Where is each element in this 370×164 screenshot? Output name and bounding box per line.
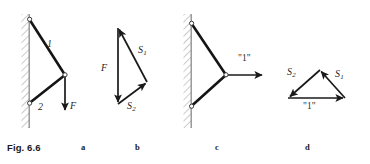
panel-a-structure (22, 14, 68, 128)
panel-label-c: c (215, 142, 219, 152)
figure-drawing-canvas (0, 0, 370, 164)
panel-label-b: b (135, 142, 140, 152)
vector-S2-subscript-d: 2 (292, 71, 296, 79)
unit-force-label-d: "1" (303, 101, 316, 111)
member-2-a (30, 75, 66, 103)
pin-joint-apex-a (63, 73, 67, 77)
figure-6-6: 1 2 F F S1 S2 "1" S2 S1 "1" Fig. 6.6 a b… (0, 0, 370, 164)
panel-b-force-triangle (118, 28, 147, 104)
member-1-label-a: 1 (47, 38, 52, 49)
unit-force-label-c: "1" (238, 53, 251, 63)
figure-caption: Fig. 6.6 (7, 142, 41, 153)
pin-joint-lower-a (28, 101, 32, 105)
vector-S1-label-b: S1 (138, 44, 147, 57)
panel-c-structure (184, 14, 263, 128)
vector-S1-subscript-b: 1 (143, 49, 147, 57)
vector-S2-label-d: S2 (287, 66, 296, 79)
vector-S2-subscript-b: 2 (132, 105, 136, 113)
vector-F-label-b: F (101, 62, 107, 73)
pin-joint-upper-a (28, 17, 32, 21)
panel-label-a: a (81, 142, 85, 152)
pin-joint-upper-c (190, 21, 194, 25)
wall-hatching-a (22, 14, 30, 128)
wall-hatching-c (184, 14, 192, 128)
pin-joint-apex-c (224, 73, 228, 77)
vector-S1-subscript-d: 1 (340, 73, 344, 81)
member-1-c (192, 24, 227, 76)
member-2-c (192, 75, 227, 106)
vector-S1-label-d: S1 (335, 68, 344, 81)
member-2-label-a: 2 (38, 101, 43, 112)
vector-S2-label-b: S2 (127, 100, 136, 113)
panel-label-d: d (305, 142, 310, 152)
pin-joint-lower-c (190, 104, 194, 108)
force-F-label-a: F (70, 100, 76, 111)
